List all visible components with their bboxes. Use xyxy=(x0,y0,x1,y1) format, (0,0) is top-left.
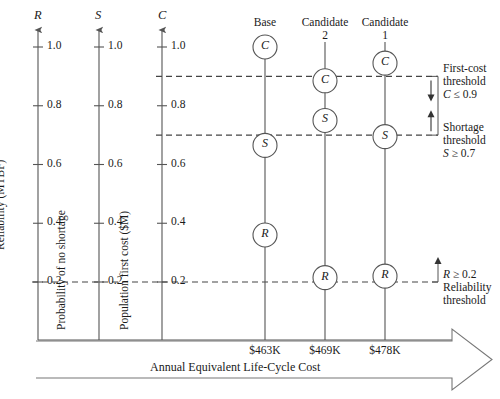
threshold-brackets xyxy=(428,76,442,282)
marker-letter-S: S xyxy=(313,112,337,125)
tick-label-C-0.4: 0.4 xyxy=(171,215,185,228)
tick-label-R-0.6: 0.6 xyxy=(47,157,61,170)
axis-symbol-C: C xyxy=(158,8,166,22)
axis-title-R: Reliability (MTBF) xyxy=(0,160,7,250)
cost-axis-caption: Annual Equivalent Life-Cycle Cost xyxy=(150,361,320,374)
tick-label-R-1.0: 1.0 xyxy=(47,39,61,52)
marker-letter-R: R xyxy=(253,227,277,240)
tick-label-S-1.0: 1.0 xyxy=(108,39,122,52)
multi-attribute-tradeoff-diagram: 1.00.80.60.40.2RReliability (MTBF)1.00.8… xyxy=(0,0,500,399)
value-axes-group xyxy=(33,30,167,340)
diagram-vector-layer xyxy=(0,0,500,399)
tick-label-C-1.0: 1.0 xyxy=(171,39,185,52)
marker-letter-S: S xyxy=(253,137,277,150)
bracket-reliability xyxy=(432,264,438,282)
arrow-up-reliability xyxy=(435,257,442,264)
tick-label-C-0.2: 0.2 xyxy=(171,274,185,287)
tick-label-C-0.6: 0.6 xyxy=(171,157,185,170)
arrow-down-first-cost xyxy=(428,94,435,101)
threshold-note-shortage: ShortagethresholdS ≥ 0.7 xyxy=(443,121,486,160)
tick-label-S-0.6: 0.6 xyxy=(108,157,122,170)
alternative-header: Candidate1 xyxy=(340,16,430,42)
threshold-dashed-lines xyxy=(32,76,438,282)
marker-letter-C: C xyxy=(373,55,397,68)
marker-letter-S: S xyxy=(373,129,397,142)
axis-title-S: Probability of no shortage xyxy=(55,210,68,330)
axis-symbol-R: R xyxy=(34,8,42,22)
axis-title-C: Population first cost ($M) xyxy=(118,211,131,330)
axis-symbol-S: S xyxy=(95,8,101,22)
threshold-note-reliability: R ≥ 0.2Reliabilitythreshold xyxy=(443,268,492,307)
marker-letter-R: R xyxy=(373,268,397,281)
marker-letter-R: R xyxy=(313,270,337,283)
threshold-note-first-cost: First-costthresholdC ≤ 0.9 xyxy=(443,62,486,101)
alternative-cost-label: $478K xyxy=(340,344,430,357)
tick-label-C-0.8: 0.8 xyxy=(171,98,185,111)
tick-label-S-0.8: 0.8 xyxy=(108,98,122,111)
marker-letter-C: C xyxy=(253,39,277,52)
arrow-up-shortage xyxy=(428,110,435,117)
bracket-cost-shortage xyxy=(432,76,438,135)
marker-letter-C: C xyxy=(313,73,337,86)
tick-label-R-0.8: 0.8 xyxy=(47,98,61,111)
